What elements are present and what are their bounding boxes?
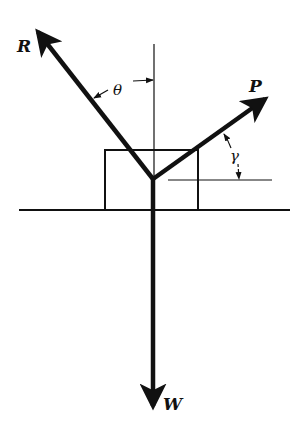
force-diagram: R P W θ γ — [0, 0, 298, 427]
label-P: P — [248, 76, 263, 96]
label-R: R — [16, 36, 31, 56]
label-W: W — [163, 394, 184, 414]
force-R-arrow — [38, 32, 153, 179]
label-gamma: γ — [230, 147, 239, 165]
label-theta: θ — [113, 81, 122, 99]
theta-arrow-to-R — [94, 90, 108, 98]
gamma-arrow-to-P — [224, 134, 231, 148]
gamma-arrow-to-horizontal — [238, 164, 239, 179]
theta-arrow-to-vertical — [133, 80, 153, 81]
force-P-arrow — [153, 99, 265, 179]
